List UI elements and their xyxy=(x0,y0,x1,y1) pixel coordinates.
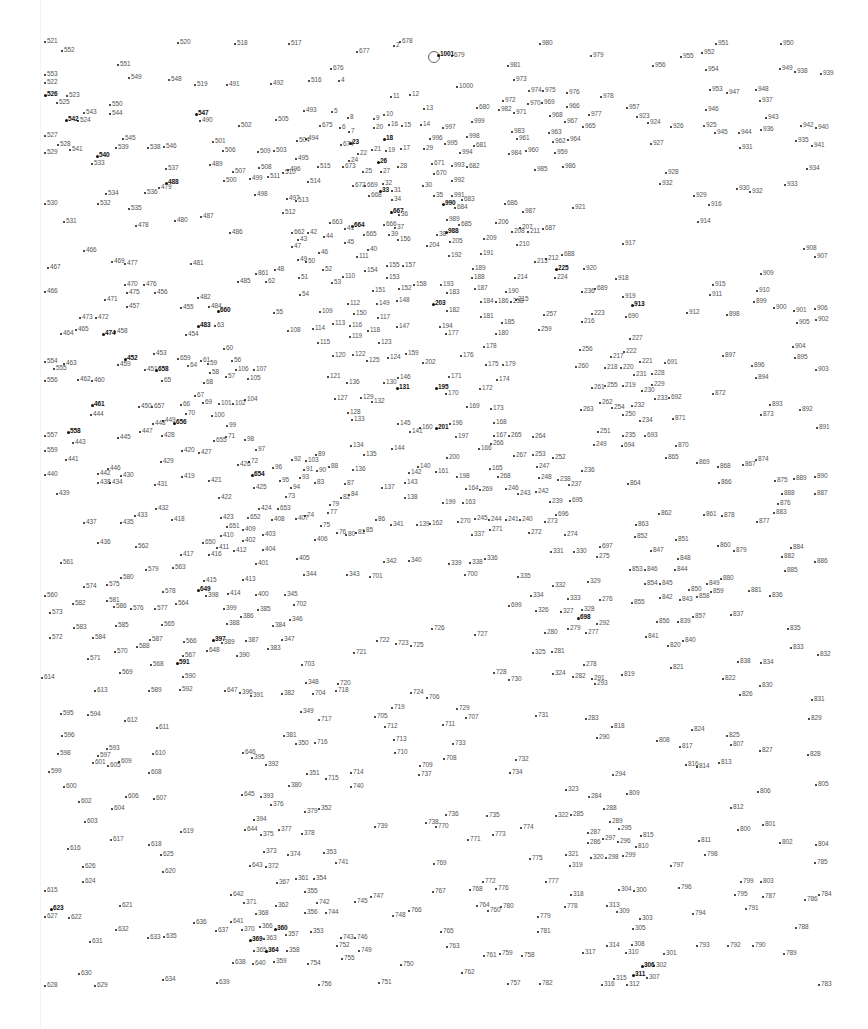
dot-icon xyxy=(229,232,231,234)
dot-label: 810 xyxy=(638,842,649,849)
dot-icon xyxy=(484,558,486,560)
dot-label: 387 xyxy=(248,636,259,643)
dot-icon xyxy=(499,953,501,955)
dot-icon xyxy=(327,512,329,514)
dot-label: 355 xyxy=(307,887,318,894)
dot-icon xyxy=(622,296,624,298)
dot-label: 320 xyxy=(593,853,604,860)
dot-label: 522 xyxy=(47,78,58,85)
dot-label: 371 xyxy=(246,898,257,905)
dot-label: 579 xyxy=(148,565,159,572)
dot-icon xyxy=(331,111,333,113)
dot-icon xyxy=(474,518,476,520)
dot-icon xyxy=(629,569,631,571)
dot-label: 603 xyxy=(87,817,98,824)
dot-icon xyxy=(190,263,192,265)
dot-label: 388 xyxy=(229,619,240,626)
dot-label: 573 xyxy=(52,608,63,615)
dot-icon xyxy=(538,477,540,479)
dot-label: 701 xyxy=(372,572,383,579)
dot-icon xyxy=(737,661,739,663)
dot-icon xyxy=(461,972,463,974)
dot-label: 811 xyxy=(701,836,711,843)
dot-icon xyxy=(242,579,244,581)
dot-label: 94 xyxy=(293,483,300,490)
dot-label: 277 xyxy=(588,628,599,635)
dot-icon xyxy=(564,534,566,536)
dot-icon xyxy=(555,815,557,817)
dot-label: 162 xyxy=(432,519,443,526)
dot-icon xyxy=(445,393,447,395)
dot-label: 652 xyxy=(250,513,261,520)
dot-label: 453 xyxy=(156,349,167,356)
dot-label: 678 xyxy=(402,37,413,44)
dot-label: 570 xyxy=(117,647,128,654)
dot-label: 960 xyxy=(528,146,539,153)
dot-label: 633 xyxy=(150,933,161,940)
dot-icon xyxy=(476,905,478,907)
dot-icon xyxy=(807,754,809,756)
dot-icon xyxy=(532,436,534,438)
dot-label: 201 xyxy=(438,423,449,430)
dot-icon xyxy=(446,219,448,221)
dot-icon xyxy=(299,477,301,479)
dot-label: 266 xyxy=(493,439,504,446)
dot-icon xyxy=(293,604,295,606)
dot-label: 143 xyxy=(407,478,418,485)
dot-icon xyxy=(474,288,476,290)
dot-label: 188 xyxy=(474,273,485,280)
dot-label: 478 xyxy=(138,221,149,228)
dot-label: 957 xyxy=(629,103,640,110)
dot-icon xyxy=(172,567,174,569)
dot-label: 719 xyxy=(394,703,405,710)
dot-label: 103 xyxy=(308,456,319,463)
dot-label: 776 xyxy=(498,884,509,891)
dot-label: 216 xyxy=(584,317,595,324)
dot-icon xyxy=(180,404,182,406)
dot-label: 945 xyxy=(717,128,728,135)
dot-label: 892 xyxy=(802,405,813,412)
dot-label: 440 xyxy=(47,470,58,477)
dot-label: 119 xyxy=(352,332,362,339)
dot-icon xyxy=(675,539,677,541)
dot-label: 813 xyxy=(721,758,732,765)
dot-label: 711 xyxy=(445,720,455,727)
dot-icon xyxy=(242,529,244,531)
dot-label: 904 xyxy=(795,342,806,349)
dot-icon xyxy=(504,203,506,205)
dot-icon xyxy=(353,313,355,315)
dot-icon xyxy=(107,468,109,470)
dot-icon xyxy=(418,774,420,776)
dot-label: 242 xyxy=(538,487,549,494)
dot-icon xyxy=(301,664,303,666)
dot-label: 366 xyxy=(262,922,273,929)
dot-icon xyxy=(330,68,332,70)
dot-icon xyxy=(530,595,532,597)
dot-icon xyxy=(625,316,627,318)
dot-icon xyxy=(756,521,758,523)
dot-label: 267 xyxy=(516,451,527,458)
dot-label: 620 xyxy=(165,867,176,874)
dot-label: 450 xyxy=(141,402,152,409)
dot-icon xyxy=(272,625,274,627)
dot-icon xyxy=(483,238,485,240)
dot-icon xyxy=(742,464,744,466)
dot-icon xyxy=(369,576,371,578)
dot-icon xyxy=(820,73,822,75)
dot-icon xyxy=(510,301,512,303)
dot-icon xyxy=(115,625,117,627)
dot-label: 894 xyxy=(758,373,769,380)
dot-icon xyxy=(257,609,259,611)
dot-label: 604 xyxy=(114,804,125,811)
dot-icon xyxy=(779,842,781,844)
dot-label: 353 xyxy=(326,848,337,855)
dot-label: 505 xyxy=(278,115,289,122)
dot-label: 744 xyxy=(328,908,339,915)
dot-icon xyxy=(213,440,215,442)
dot-label: 272 xyxy=(531,528,542,535)
dot-label: 75 xyxy=(323,521,330,528)
dot-label: 29 xyxy=(426,144,433,151)
dot-label: 884 xyxy=(793,543,804,550)
dot-icon xyxy=(818,894,820,896)
dot-label: 632 xyxy=(118,925,129,932)
